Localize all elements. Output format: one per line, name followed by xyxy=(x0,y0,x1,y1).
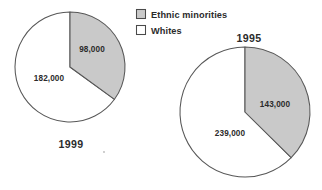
legend-item-whites: Whites xyxy=(137,26,182,36)
pie-chart-1995: 143,000 239,000 1995 xyxy=(180,32,310,177)
legend-label-ethnic-minorities: Ethnic minorities xyxy=(151,10,227,20)
pie-chart-title-1995: 1995 xyxy=(236,32,261,44)
pie-value-label-whites-1995: 239,000 xyxy=(215,129,246,138)
legend: Ethnic minorities Whites xyxy=(137,10,228,36)
pie-value-label-whites-1999: 182,000 xyxy=(34,74,65,83)
scan-speck xyxy=(103,151,105,153)
pie-chart-1999: 98,000 182,000 1999 xyxy=(15,12,125,150)
pie-chart-title-1999: 1999 xyxy=(58,138,83,150)
pie-value-label-ethnic-minorities-1999: 98,000 xyxy=(79,45,105,54)
legend-item-ethnic-minorities: Ethnic minorities xyxy=(137,10,228,20)
white-swatch-icon xyxy=(137,26,146,35)
pie-chart-figure: 98,000 182,000 1999 143,000 239,000 1995… xyxy=(0,0,322,190)
legend-label-whites: Whites xyxy=(151,26,182,36)
gray-swatch-icon xyxy=(137,10,146,19)
pie-value-label-ethnic-minorities-1995: 143,000 xyxy=(260,100,291,109)
